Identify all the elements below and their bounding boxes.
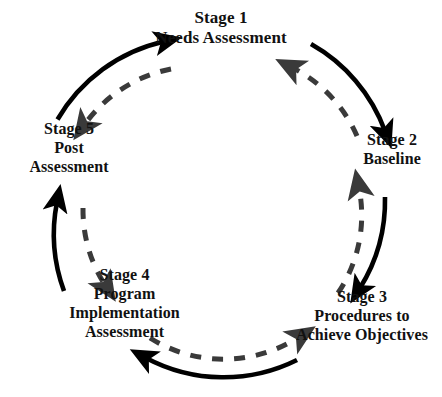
stage-3-line-2: Procedures to: [282, 307, 442, 326]
stage-4-line-1: Stage 4: [52, 266, 197, 285]
stage-1-line-1: Stage 1: [0, 8, 442, 28]
stage-3-line-3: Achieve Objectives: [282, 326, 442, 345]
stage-5-line-3: Assessment: [8, 158, 130, 177]
stage-label-1: Stage 1 Needs Assessment: [0, 8, 442, 48]
stage-label-4: Stage 4 Program Implementation Assessmen…: [52, 266, 197, 342]
stage-5-line-1: Stage 5: [8, 120, 130, 139]
stage-label-5: Stage 5 Post Assessment: [8, 120, 130, 177]
stage-label-2: Stage 2 Baseline: [344, 131, 440, 169]
stage-5-line-2: Post: [8, 139, 130, 158]
stage-label-3: Stage 3 Procedures to Achieve Objectives: [282, 288, 442, 345]
stage-4-line-4: Assessment: [52, 323, 197, 342]
stage-1-line-2: Needs Assessment: [0, 28, 442, 48]
stage-2-line-2: Baseline: [344, 150, 440, 169]
stage-4-line-2: Program: [52, 285, 197, 304]
stage-3-line-1: Stage 3: [282, 288, 442, 307]
stage-4-line-3: Implementation: [52, 304, 197, 323]
stage-2-line-1: Stage 2: [344, 131, 440, 150]
